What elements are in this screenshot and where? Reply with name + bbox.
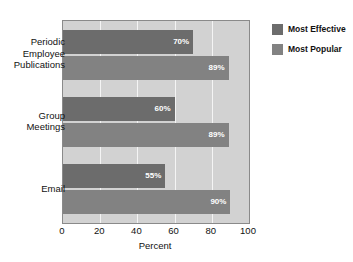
legend-swatch-icon bbox=[272, 24, 283, 35]
bar-value-label: 89% bbox=[209, 131, 225, 139]
category-label-line: Publications bbox=[0, 59, 65, 71]
bar-group: 55%90% bbox=[63, 164, 249, 214]
x-axis-title: Percent bbox=[62, 240, 248, 251]
x-axis-tick-label: 40 bbox=[131, 225, 142, 236]
bar-value-label: 55% bbox=[145, 172, 161, 180]
legend-item-label: Most Popular bbox=[288, 44, 342, 54]
legend-item[interactable]: Most Popular bbox=[272, 40, 353, 58]
category-label-line: Periodic bbox=[0, 36, 65, 48]
legend-item[interactable]: Most Effective bbox=[272, 20, 353, 38]
category-label: GroupMeetings bbox=[0, 110, 65, 133]
x-axis-tick-label: 60 bbox=[168, 225, 179, 236]
x-axis-tick-label: 0 bbox=[59, 225, 64, 236]
bar-group: 70%89% bbox=[63, 30, 249, 80]
chart-legend: Most EffectiveMost Popular bbox=[272, 20, 353, 60]
bar-most-effective: 60% bbox=[63, 97, 175, 121]
bar-most-effective: 70% bbox=[63, 30, 193, 54]
bar-value-label: 60% bbox=[155, 105, 171, 113]
category-label-line: Employee bbox=[0, 48, 65, 60]
bar-value-label: 90% bbox=[210, 198, 226, 206]
x-axis-tick-label: 20 bbox=[94, 225, 105, 236]
category-label-line: Meetings bbox=[0, 121, 65, 133]
x-axis-tick-label: 100 bbox=[240, 225, 256, 236]
bar-chart: 70%89%60%89%55%90% PeriodicEmployeePubli… bbox=[0, 0, 353, 262]
category-label: PeriodicEmployeePublications bbox=[0, 36, 65, 71]
legend-item-label: Most Effective bbox=[288, 24, 346, 34]
plot-area: 70%89%60%89%55%90% bbox=[62, 20, 250, 224]
category-label: Email bbox=[0, 183, 65, 195]
category-label-line: Email bbox=[0, 183, 65, 195]
bar-value-label: 70% bbox=[173, 38, 189, 46]
bar-group: 60%89% bbox=[63, 97, 249, 147]
bar-most-popular: 90% bbox=[63, 190, 230, 214]
bar-most-popular: 89% bbox=[63, 56, 229, 80]
category-label-line: Group bbox=[0, 110, 65, 122]
bar-value-label: 89% bbox=[209, 64, 225, 72]
bar-most-popular: 89% bbox=[63, 123, 229, 147]
x-axis-tick-label: 80 bbox=[206, 225, 217, 236]
legend-swatch-icon bbox=[272, 44, 283, 55]
bar-most-effective: 55% bbox=[63, 164, 165, 188]
